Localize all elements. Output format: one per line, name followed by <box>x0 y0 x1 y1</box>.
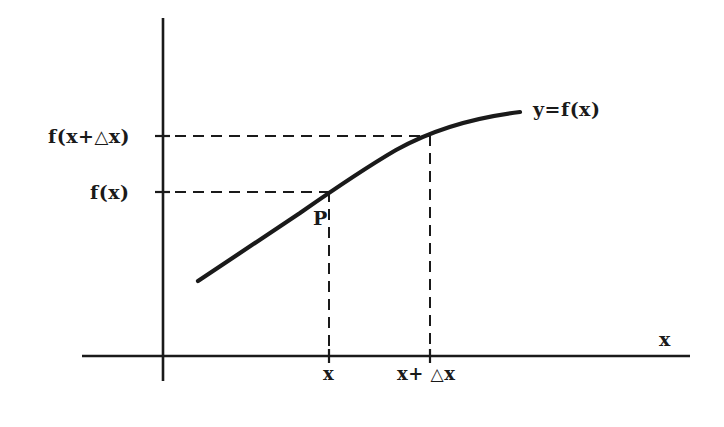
y-axis-value-upper-pre: f(x+ <box>48 125 94 147</box>
figure-canvas <box>0 0 724 427</box>
curve-name-label: y=f(x) <box>533 100 600 119</box>
x-axis-name-label: x <box>659 330 671 349</box>
x-tick-right-post: x <box>444 363 455 384</box>
y-axis-value-label-lower: f(x) <box>90 183 129 202</box>
x-axis-tick-label-x: x <box>323 365 334 383</box>
delta-icon: △ <box>431 364 445 384</box>
x-tick-right-pre: x+ <box>397 363 431 384</box>
y-axis-value-upper-post: x) <box>109 125 130 147</box>
x-axis-tick-label-x-plus-delta-x: x+ △x <box>397 365 455 383</box>
function-curve <box>198 112 520 281</box>
y-axis-value-label-upper: f(x+△x) <box>48 127 130 146</box>
curve-point-label-p: P <box>313 209 328 228</box>
delta-icon: △ <box>94 126 108 147</box>
derivative-diagram-figure: f(x+△x) f(x) P x x+ △x x y=f(x) <box>0 0 724 427</box>
